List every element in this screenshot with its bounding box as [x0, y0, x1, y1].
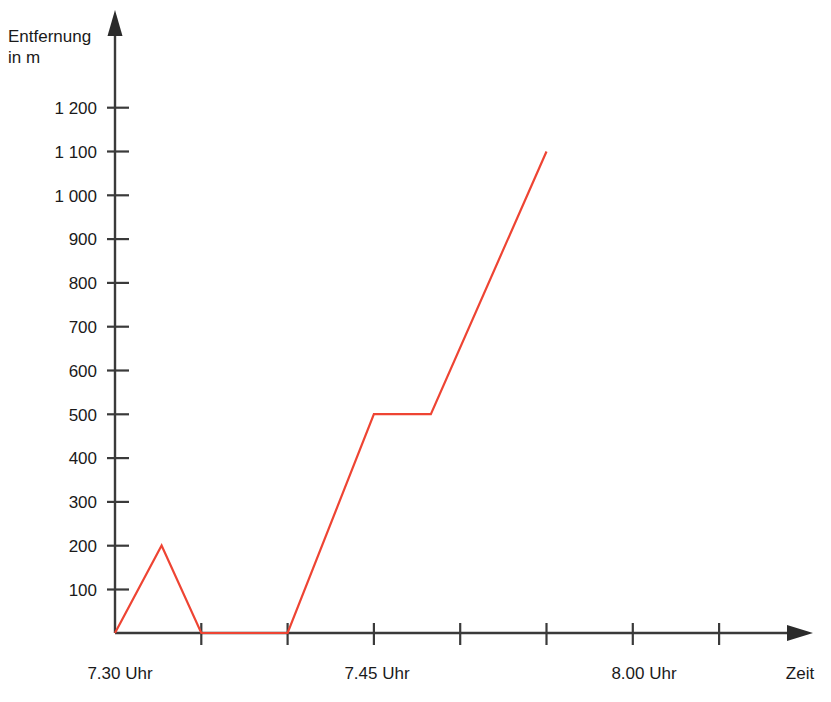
x-axis-title: Zeit — [786, 664, 815, 683]
x-axis-tick-labels: 7.30 Uhr 7.45 Uhr 8.00 Uhr — [87, 664, 677, 683]
y-tick-label-800: 800 — [69, 274, 97, 293]
x-axis-arrowhead — [787, 625, 813, 641]
y-axis-title-line1: Entfernung — [8, 27, 91, 46]
y-tick-label-700: 700 — [69, 318, 97, 337]
y-axis-tick-labels: 100 200 300 400 500 600 700 800 900 1 00… — [54, 99, 97, 600]
distance-time-line — [115, 151, 547, 633]
entfernung-zeit-diagramm: Entfernung in m 100 200 300 4 — [0, 0, 831, 702]
y-tick-label-1200: 1 200 — [54, 99, 97, 118]
y-tick-label-500: 500 — [69, 406, 97, 425]
x-tick-label-1: 7.45 Uhr — [344, 664, 410, 683]
y-tick-label-100: 100 — [69, 581, 97, 600]
y-tick-label-200: 200 — [69, 537, 97, 556]
y-axis-title-line2: in m — [8, 48, 40, 67]
y-tick-label-1000: 1 000 — [54, 187, 97, 206]
y-axis-arrowhead — [108, 10, 123, 36]
y-axis-ticks — [107, 108, 129, 590]
x-tick-label-2: 8.00 Uhr — [611, 664, 677, 683]
y-tick-label-1100: 1 100 — [54, 143, 97, 162]
chart-canvas: Entfernung in m 100 200 300 4 — [0, 0, 831, 702]
x-tick-label-0: 7.30 Uhr — [87, 664, 153, 683]
y-tick-label-600: 600 — [69, 362, 97, 381]
y-tick-label-400: 400 — [69, 449, 97, 468]
y-tick-label-300: 300 — [69, 493, 97, 512]
y-tick-label-900: 900 — [69, 230, 97, 249]
